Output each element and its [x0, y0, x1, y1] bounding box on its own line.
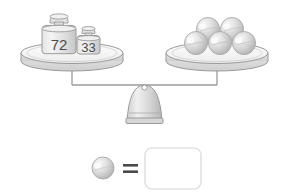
equation-row	[92, 148, 201, 189]
balance-beam	[72, 70, 217, 85]
sphere	[233, 32, 256, 55]
weight-label-33: 33	[81, 40, 95, 55]
equals-icon	[123, 164, 138, 173]
sphere	[209, 32, 232, 55]
balance-scale-diagram: 72 33	[0, 0, 289, 192]
sphere-group-front	[185, 32, 256, 55]
weight-label-72: 72	[51, 36, 68, 53]
weight-72: 72	[42, 14, 76, 54]
fulcrum	[126, 85, 163, 124]
weight-33: 33	[77, 27, 100, 55]
answer-input-box[interactable]	[145, 148, 201, 189]
sphere-icon	[92, 157, 114, 179]
sphere	[185, 32, 208, 55]
